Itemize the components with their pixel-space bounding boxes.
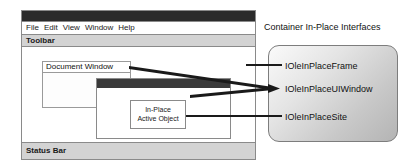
interface-label-ioleinplacesite: IOleInPlaceSite	[285, 112, 347, 122]
menu-item-help[interactable]: Help	[118, 24, 134, 32]
application-title-bar	[22, 11, 255, 22]
menu-item-file[interactable]: File	[26, 24, 39, 32]
status-bar: Status Bar	[22, 142, 255, 159]
active-object-label-line2: Active Object	[137, 115, 178, 123]
document-window-title-label: Document Window	[46, 63, 113, 71]
interface-label-ioleinplaceframe: IOleInPlaceFrame	[285, 61, 358, 71]
interface-panel-heading: Container In-Place Interfaces	[264, 22, 381, 32]
menu-item-edit[interactable]: Edit	[44, 24, 58, 32]
diagram-root: File Edit View Window Help Toolbar Statu…	[0, 0, 405, 166]
interface-label-ioleinplaceuiwindow: IOleInPlaceUIWindow	[285, 84, 373, 94]
active-object-label-line1: In-Place	[145, 106, 171, 114]
toolbar-label: Toolbar	[26, 37, 55, 45]
inplace-window-title-bar	[97, 79, 230, 88]
inplace-active-object-box: In-Place Active Object	[130, 100, 186, 129]
menu-item-view[interactable]: View	[63, 24, 80, 32]
toolbar: Toolbar	[22, 35, 255, 47]
menu-bar: File Edit View Window Help	[22, 22, 255, 35]
document-window-title-bar: Document Window	[43, 62, 130, 73]
menu-item-window[interactable]: Window	[85, 24, 113, 32]
status-bar-label: Status Bar	[26, 147, 66, 155]
